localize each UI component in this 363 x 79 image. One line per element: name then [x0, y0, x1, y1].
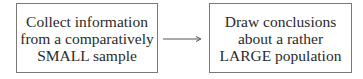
node-draw-conclusions: Draw conclusions about a rather LARGE po…: [209, 3, 352, 73]
arrow-right-icon: [163, 33, 203, 45]
node-collect-information: Collect information from a comparatively…: [16, 3, 158, 73]
node-text-line: LARGE population: [220, 47, 342, 64]
node-text-line: SMALL sample: [37, 47, 137, 64]
node-text-line: about a rather: [238, 30, 323, 47]
node-text-line: from a comparatively: [20, 30, 153, 47]
node-text-line: Draw conclusions: [225, 13, 337, 30]
node-text-line: Collect information: [26, 13, 148, 30]
